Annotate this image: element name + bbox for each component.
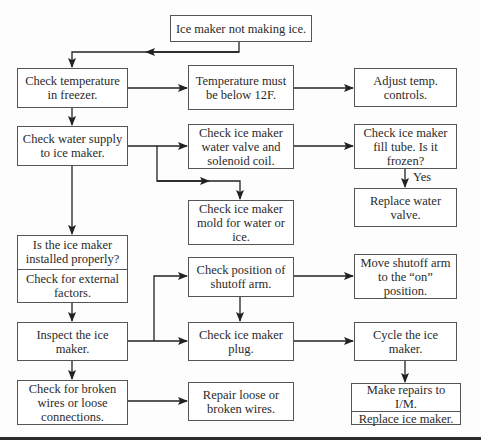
- node-temperature-below: Temperature must be below 12F.: [188, 65, 294, 110]
- node-part-make-repairs: Make repairs to I/M.: [352, 383, 460, 411]
- node-check-wires: Check for broken wires or loose connecti…: [17, 380, 128, 425]
- node-text: Cycle the ice maker.: [358, 328, 453, 356]
- node-text: Replace water valve.: [358, 194, 453, 222]
- node-check-temperature: Check temperature in freezer.: [17, 68, 128, 108]
- node-text: Adjust temp. controls.: [358, 74, 453, 102]
- node-text: Check water supply to ice maker.: [21, 132, 124, 160]
- node-check-mold: Check ice maker mold for water or ice.: [188, 200, 294, 245]
- edge-label-yes: Yes: [413, 170, 431, 185]
- node-text: Check for broken wires or loose connecti…: [21, 382, 124, 424]
- node-text: Move shutoff arm to the “on” position.: [358, 256, 453, 298]
- node-text: Check ice maker plug.: [192, 328, 290, 356]
- node-part-external-factors: Check for external factors.: [18, 269, 127, 303]
- node-text: Temperature must be below 12F.: [192, 74, 290, 102]
- node-text: Check position of shutoff arm.: [192, 263, 290, 291]
- node-check-shutoff-arm: Check position of shutoff arm.: [188, 257, 294, 297]
- node-adjust-temp: Adjust temp. controls.: [354, 68, 457, 107]
- node-part-replace-ice-maker: Replace ice maker.: [352, 411, 460, 426]
- node-replace-water-valve: Replace water valve.: [354, 188, 457, 227]
- node-text: Check temperature in freezer.: [21, 74, 124, 102]
- node-repair-wires: Repair loose or broken wires.: [188, 382, 294, 421]
- flowchart: Ice maker not making ice. Check temperat…: [0, 0, 481, 440]
- node-check-plug: Check ice maker plug.: [188, 322, 294, 361]
- node-cycle-ice-maker: Cycle the ice maker.: [354, 322, 457, 361]
- node-part-question: Is the ice maker installed properly?: [18, 236, 127, 269]
- node-text: Check ice maker fill tube. Is it frozen?: [358, 126, 453, 168]
- node-text: Check ice maker water valve and solenoid…: [192, 126, 290, 168]
- node-text: Check ice maker mold for water or ice.: [192, 202, 290, 244]
- start-node-text: Ice maker not making ice.: [176, 22, 306, 36]
- node-check-water-valve: Check ice maker water valve and solenoid…: [188, 124, 294, 169]
- node-check-fill-tube: Check ice maker fill tube. Is it frozen?: [354, 124, 457, 169]
- node-text: Repair loose or broken wires.: [192, 388, 290, 416]
- node-final-actions: Make repairs to I/M. Replace ice maker.: [351, 383, 461, 425]
- start-node: Ice maker not making ice.: [170, 15, 312, 42]
- node-inspect-ice-maker: Inspect the ice maker.: [17, 322, 128, 361]
- node-installed-properly: Is the ice maker installed properly? Che…: [17, 235, 128, 303]
- node-text: Inspect the ice maker.: [21, 328, 124, 356]
- node-move-shutoff-arm: Move shutoff arm to the “on” position.: [354, 254, 457, 299]
- node-check-water-supply: Check water supply to ice maker.: [17, 126, 128, 166]
